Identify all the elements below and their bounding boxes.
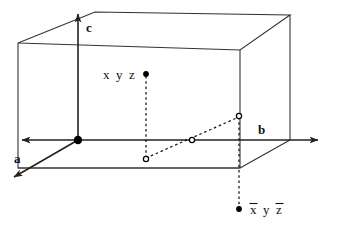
point-label-xyz-y: y	[116, 67, 123, 82]
unit-cell-box	[18, 12, 290, 168]
origin-dot	[74, 136, 82, 144]
axis-a-line	[14, 140, 78, 177]
point-label-xbar-z: z	[276, 202, 282, 217]
crystal-axes	[14, 14, 318, 177]
point-marker-xbar-y-zbar	[236, 206, 242, 212]
inversion-center-marker	[189, 137, 194, 142]
point-label-xbar-y: y	[263, 202, 270, 217]
projection-marker-upper-right	[236, 113, 241, 118]
box-top-face	[18, 12, 290, 50]
point-label-xyz-x: x	[103, 67, 110, 82]
axis-label-a: a	[14, 151, 21, 166]
cut-off-caption	[4, 223, 7, 228]
unit-cell-figure: a b c x y z x y z	[0, 0, 337, 228]
box-base-right-slant	[240, 140, 290, 168]
point-label-xbar-x: x	[250, 202, 257, 217]
box-front-left-face	[18, 43, 240, 168]
axis-label-b: b	[258, 122, 265, 137]
projection-marker-xyz-base	[143, 156, 148, 161]
axis-label-c: c	[86, 20, 92, 35]
point-label-xbar-y-zbar: x y z	[250, 202, 284, 217]
point-label-xyz-z: z	[129, 67, 135, 82]
point-label-xyz: x y z	[103, 67, 135, 82]
unit-cell-diagram: a b c x y z x y z	[0, 0, 337, 228]
point-marker-xyz	[143, 71, 149, 77]
